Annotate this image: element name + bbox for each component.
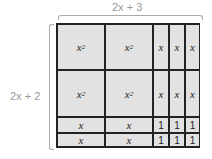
- top-brace: [58, 15, 203, 20]
- width-label: 2x + 3: [112, 1, 142, 13]
- tile-x: x: [57, 133, 105, 147]
- tile-x: x: [105, 117, 153, 133]
- algebra-tile-grid: x2 x2 x x x x2 x2 x x x x x 1 1 1 x x 1 …: [56, 23, 200, 148]
- tile-x: x: [153, 70, 169, 117]
- tile-x2: x2: [105, 70, 153, 117]
- tile-x2: x2: [105, 24, 153, 70]
- tile-x: x: [57, 117, 105, 133]
- tile-1: 1: [153, 117, 169, 133]
- tile-x: x: [153, 24, 169, 70]
- tile-1: 1: [185, 117, 200, 133]
- tile-x: x: [169, 24, 185, 70]
- tile-1: 1: [169, 133, 185, 147]
- left-brace: [49, 24, 54, 150]
- tile-x2: x2: [57, 70, 105, 117]
- tile-x: x: [185, 70, 200, 117]
- tile-1: 1: [153, 133, 169, 147]
- tile-1: 1: [169, 117, 185, 133]
- tile-x2: x2: [57, 24, 105, 70]
- tile-x: x: [105, 133, 153, 147]
- tile-x: x: [185, 24, 200, 70]
- tile-1: 1: [185, 133, 200, 147]
- height-label: 2x + 2: [10, 90, 40, 102]
- tile-x: x: [169, 70, 185, 117]
